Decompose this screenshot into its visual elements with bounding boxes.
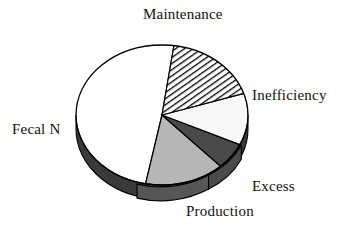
pie-label-excess-feeding-line2: Feeding xyxy=(252,229,302,231)
pie-label-fecal-n: Fecal N xyxy=(12,121,60,138)
pie-chart-figure: Maintenance Inefficiency Excess Feeding … xyxy=(0,0,340,231)
pie-label-excess-feeding-line1: Excess xyxy=(252,178,302,195)
pie-label-production: Production xyxy=(186,203,254,220)
pie-label-excess-feeding: Excess Feeding xyxy=(252,144,302,231)
pie-label-maintenance: Maintenance xyxy=(143,6,223,23)
pie-label-inefficiency: Inefficiency xyxy=(252,87,327,104)
